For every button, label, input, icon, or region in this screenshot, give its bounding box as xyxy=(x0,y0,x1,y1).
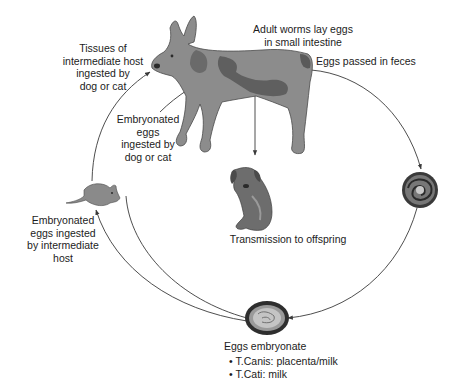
life-cycle-diagram: Adult worms lay eggs in small intestine … xyxy=(0,0,458,385)
intermediate-host-label: Embryonated eggs ingested by intermediat… xyxy=(20,214,106,264)
direct-ingestion-label: Embryonated eggs ingested by dog or cat xyxy=(110,113,186,163)
eggs-embryonate-label: Eggs embryonate xyxy=(224,340,306,353)
eggs-passed-label: Eggs passed in feces xyxy=(316,55,416,68)
tissues-ingested-label: Tissues of intermediate host ingested by… xyxy=(50,42,156,92)
bullet-t-cati: T.Cati: milk xyxy=(229,368,338,381)
transmission-bullets: T.Canis: placenta/milk T.Cati: milk xyxy=(229,355,338,381)
bullet-t-canis: T.Canis: placenta/milk xyxy=(229,355,338,368)
adult-worms-label: Adult worms lay eggs in small intestine xyxy=(232,23,374,48)
transmission-label: Transmission to offspring xyxy=(220,233,356,246)
